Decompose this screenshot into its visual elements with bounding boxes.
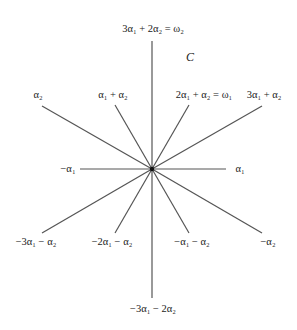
root-line-3alpha1-plus-alpha2: [152, 106, 262, 169]
root-line-alpha2: [42, 106, 152, 169]
root-label-3alpha1-plus-alpha2: 3α₁ + α₂: [247, 89, 282, 100]
root-line-2alpha1-plus-alpha2: [152, 105, 189, 169]
root-label-3alpha1-plus-2alpha2: 3α₁ + 2α₂ = ω₂: [122, 23, 184, 34]
root-system-diagram: α₁−α₁α₁ + α₂2α₁ + α₂ = ω₁−2α₁ − α₂−α₁ − …: [0, 0, 297, 330]
root-label-neg-3alpha1-minus-alpha2: −3α₁ − α₂: [16, 236, 57, 247]
root-label-neg-alpha2: −α₂: [260, 236, 275, 247]
root-label-alpha2: α₂: [33, 89, 43, 100]
root-label-neg-alpha1: −α₁: [60, 163, 75, 174]
root-line-neg-3alpha1-minus-alpha2: [42, 169, 152, 233]
root-label-neg-2alpha1-minus-alpha2: −2α₁ − α₂: [92, 236, 133, 247]
root-label-2alpha1-plus-alpha2: 2α₁ + α₂ = ω₁: [176, 89, 233, 100]
root-label-alpha1: α₁: [235, 163, 244, 174]
root-line-neg-2alpha1-minus-alpha2: [115, 169, 152, 233]
root-label-alpha1-plus-alpha2: α₁ + α₂: [98, 89, 128, 100]
origin-point: [150, 167, 154, 171]
root-line-neg-alpha1-minus-alpha2: [152, 169, 189, 233]
diagram-title: C: [186, 50, 195, 64]
root-line-neg-alpha2: [152, 169, 262, 233]
root-label-neg-3alpha1-minus-2alpha2: −3α₁ − 2α₂: [130, 303, 176, 314]
root-label-neg-alpha1-minus-alpha2: −α₁ − α₂: [174, 236, 210, 247]
root-line-alpha1-plus-alpha2: [115, 105, 152, 169]
